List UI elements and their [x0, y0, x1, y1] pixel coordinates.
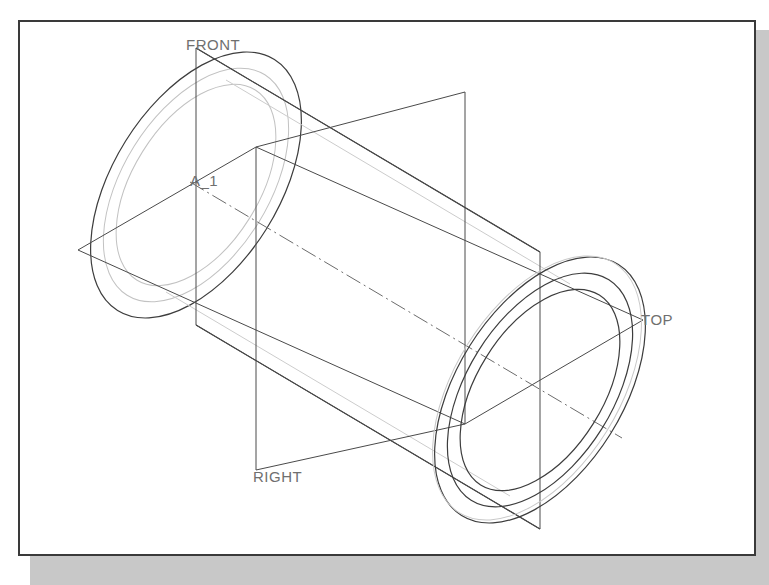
label-axis-a1: A_1: [190, 172, 218, 189]
datum-plane-front[interactable]: [196, 48, 540, 529]
label-top: TOP: [641, 311, 673, 328]
cylinder-body-silhouette: [196, 48, 540, 529]
datum-plane-front-outline[interactable]: [196, 48, 540, 529]
label-right: RIGHT: [253, 468, 302, 485]
cad-drawing-screen: FRONT A_1 TOP RIGHT: [0, 0, 769, 585]
label-front: FRONT: [186, 36, 240, 53]
drawing-canvas: FRONT A_1 TOP RIGHT: [0, 0, 769, 585]
center-axis-line[interactable]: [190, 182, 622, 438]
bore-extrusion-lines: [166, 80, 570, 496]
center-axis-a1[interactable]: [190, 182, 622, 438]
